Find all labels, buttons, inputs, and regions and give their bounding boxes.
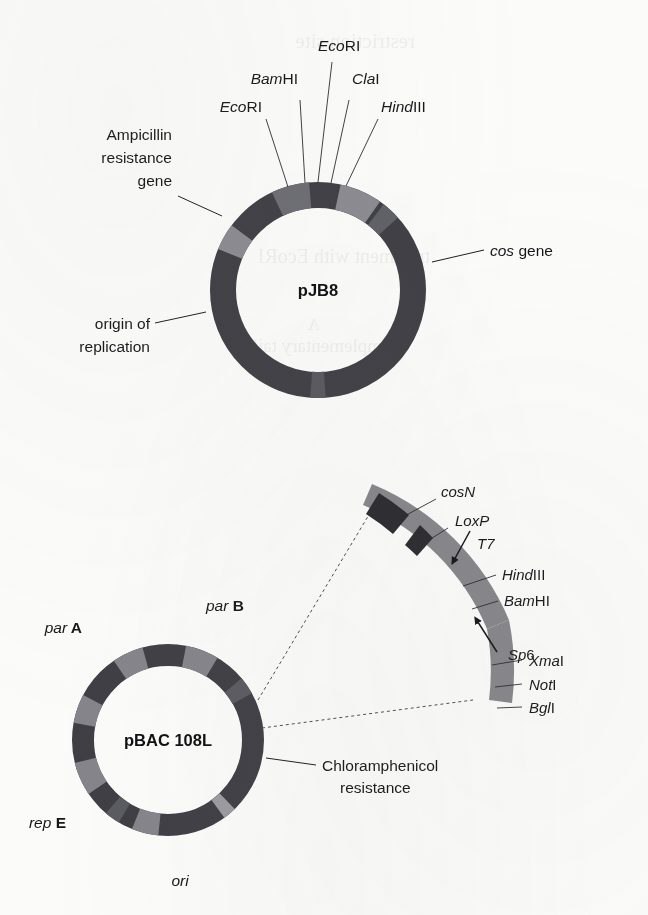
label-ecori-top-prefix: Eco — [318, 37, 345, 54]
leader-bamhi — [300, 100, 305, 183]
label-par-b-suffix: B — [228, 597, 244, 614]
label-hindiii: HindIII — [381, 98, 426, 115]
label-arc-hindiii: HindIII — [502, 566, 545, 583]
label-rep-e-suffix: E — [51, 814, 66, 831]
label-bamhi-suffix: HI — [283, 70, 299, 87]
label-ampicillin-line-2: gene — [138, 172, 172, 189]
label-arc-xmai-prefix: Xma — [528, 652, 560, 669]
leader-chloramphenicol — [266, 758, 316, 765]
label-arc-bgli: BglI — [529, 699, 555, 716]
label-ecori-left-suffix: RI — [247, 98, 263, 115]
label-arc-noti-prefix: Not — [529, 676, 553, 693]
label-hindiii-suffix: III — [413, 98, 426, 115]
leader-origin — [155, 312, 206, 323]
label-par-a: par A — [44, 619, 82, 636]
label-arc-bamhi: BamHI — [504, 592, 550, 609]
leader-hindiii — [346, 119, 378, 186]
label-ampicillin-line-0: Ampicillin — [107, 126, 172, 143]
label-arc-bgli-prefix: Bgl — [529, 699, 551, 716]
label-origin-line-1: replication — [79, 338, 150, 355]
label-arc-hindiii-prefix: Hind — [502, 566, 534, 583]
leader-cos — [432, 250, 484, 262]
leader-ecori-top — [318, 62, 332, 182]
figure-root: restriction site treatment with EcoRI A … — [0, 0, 648, 915]
label-cos-prefix: cos — [490, 242, 514, 259]
label-ampicillin-line-1: resistance — [101, 149, 172, 166]
leader-clai — [331, 100, 349, 183]
label-arc-bamhi-suffix: HI — [535, 592, 550, 609]
connector-top — [258, 513, 370, 700]
label-ecori-top: EcoRI — [318, 37, 360, 54]
label-arc-hindiii-suffix: III — [533, 566, 546, 583]
label-hindiii-prefix: Hind — [381, 98, 414, 115]
label-arc-cosn: cosN — [441, 483, 475, 500]
label-ori: ori — [171, 872, 189, 889]
label-cos-gene: cos gene — [490, 242, 553, 259]
label-arc-bamhi-prefix: Bam — [504, 592, 535, 609]
label-arc-xmai: XmaI — [528, 652, 564, 669]
pbac-diagram: pBAC 108L par B par A rep E ori Chloramp… — [29, 597, 438, 889]
label-arc-t7: T7 — [477, 535, 495, 552]
label-arc-sp6-prefix: Sp — [508, 646, 526, 663]
label-ecori-left: EcoRI — [220, 98, 262, 115]
label-ecori-top-suffix: RI — [345, 37, 361, 54]
label-rep-e-prefix: rep — [29, 814, 52, 831]
label-bamhi: BamHI — [251, 70, 298, 87]
label-clai: ClaI — [352, 70, 380, 87]
label-arc-noti-suffix: I — [552, 676, 556, 693]
leader-arc-bgli — [497, 707, 522, 708]
pjb8-name-label: pJB8 — [298, 281, 338, 299]
label-arc-bgli-suffix: I — [551, 699, 555, 716]
label-chloramphenicol-line-0: Chloramphenicol — [322, 757, 438, 774]
label-origin-line-0: origin of — [95, 315, 151, 332]
label-arc-loxp: LoxP — [455, 512, 489, 529]
label-arc-noti: NotI — [529, 676, 557, 693]
label-par-a-prefix: par — [44, 619, 68, 636]
label-ecori-left-prefix: Eco — [220, 98, 247, 115]
label-clai-prefix: Cla — [352, 70, 376, 87]
connector-bottom — [262, 700, 473, 728]
pbac-name-label: pBAC 108L — [124, 731, 212, 749]
label-par-a-suffix: A — [67, 619, 82, 636]
leader-ampicillin — [178, 196, 222, 216]
label-clai-suffix: I — [375, 70, 379, 87]
expanded-arc-diagram: cosN LoxP T7 HindIII BamHI Sp6 XmaI NotI… — [363, 483, 564, 716]
ghost-line-2: A — [307, 315, 320, 334]
label-arc-xmai-suffix: I — [560, 652, 564, 669]
label-rep-e: rep E — [29, 814, 66, 831]
vector-map-figure: restriction site treatment with EcoRI A … — [0, 0, 648, 915]
label-bamhi-prefix: Bam — [251, 70, 283, 87]
label-par-b: par B — [205, 597, 244, 614]
leader-ecori-left — [266, 119, 288, 187]
label-par-b-prefix: par — [205, 597, 229, 614]
label-cos-suffix: gene — [514, 242, 553, 259]
label-chloramphenicol-line-1: resistance — [340, 779, 411, 796]
